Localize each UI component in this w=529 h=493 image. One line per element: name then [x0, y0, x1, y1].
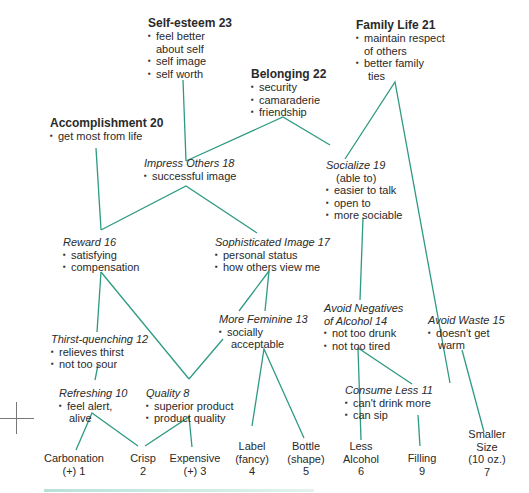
hierarchical-value-map: Self-esteem 23 feel betterabout self sel… — [0, 0, 529, 493]
attr-smaller-size: SmallerSize(10 oz.)7 — [464, 428, 510, 478]
node-reward: Reward 16 satisfying compensation — [63, 236, 140, 274]
node-bullet: can't drink more — [345, 397, 433, 410]
attr-bottle: Bottle(shape)5 — [286, 440, 326, 478]
node-title: Accomplishment 20 — [50, 116, 163, 130]
node-title: Family Life 21 — [356, 18, 445, 32]
node-bullet: open to — [326, 197, 402, 210]
node-bullet: get most from life — [50, 130, 163, 143]
attr-crisp: Crisp2 — [128, 452, 158, 477]
link-selfesteem-impress — [183, 80, 186, 161]
node-bullet: product quality — [146, 412, 234, 425]
node-title: Avoid Waste 15 — [428, 314, 505, 327]
node-bullet: superior product — [146, 400, 234, 413]
node-title: Consume Less 11 — [345, 384, 433, 397]
figure-caption-cutoff — [44, 489, 314, 492]
node-self-esteem: Self-esteem 23 feel betterabout self sel… — [148, 16, 232, 80]
node-bullet: maintain respectof others — [356, 32, 445, 57]
node-bullet: self worth — [148, 68, 232, 81]
link-feminine-quality — [189, 339, 223, 379]
registration-crosshair — [0, 402, 34, 434]
node-impress-others: Impress Others 18 successful image — [144, 157, 236, 182]
link-impress-children — [101, 186, 257, 233]
attr-less-alcohol: LessAlcohol6 — [341, 440, 381, 478]
attr-filling: Filling9 — [405, 452, 439, 477]
node-title: Socialize 19 — [326, 159, 402, 172]
node-subtitle: (able to) — [326, 172, 402, 185]
node-bullet: not too drunk — [324, 327, 403, 340]
attr-expensive: Expensive(+) 3 — [168, 452, 222, 477]
node-more-feminine: More Feminine 13 sociallyacceptable — [219, 313, 308, 351]
node-bullet: can sip — [345, 409, 433, 422]
attr-label: Label(fancy)4 — [234, 440, 270, 478]
crosshair-vertical — [16, 402, 17, 434]
node-bullet: relieves thirst — [51, 346, 148, 359]
node-bullet: successful image — [144, 170, 236, 183]
link-belonging — [186, 117, 330, 161]
node-bullet: not too sour — [51, 358, 148, 371]
node-bullet: doesn't getwarm — [428, 327, 505, 352]
link-reward-thirst — [97, 272, 101, 332]
node-title: Quality 8 — [146, 387, 234, 400]
node-title: More Feminine 13 — [219, 313, 308, 326]
node-bullet: more sociable — [326, 209, 402, 222]
node-bullet: how others view me — [215, 261, 330, 274]
node-title: Thirst-quenching 12 — [51, 333, 148, 346]
node-bullet: better familyties — [356, 57, 445, 82]
node-accomplishment: Accomplishment 20 get most from life — [50, 116, 163, 143]
node-refreshing: Refreshing 10 feel alert,alive — [59, 387, 128, 425]
node-title: Self-esteem 23 — [148, 16, 232, 30]
crosshair-horizontal — [0, 418, 34, 419]
node-bullet: satisfying — [63, 249, 140, 262]
node-belonging: Belonging 22 security camaraderie friend… — [251, 67, 326, 119]
node-title: of Alcohol 14 — [324, 315, 403, 328]
node-title: Belonging 22 — [251, 67, 326, 81]
node-bullet: feel alert,alive — [59, 400, 128, 425]
link-feminine-attrs — [252, 349, 304, 438]
link-soph-feminine-b — [265, 271, 269, 311]
node-thirst-quenching: Thirst-quenching 12 relieves thirst not … — [51, 333, 148, 371]
node-bullet: security — [251, 81, 326, 94]
link-accomplishment-reward — [96, 148, 101, 230]
node-bullet: compensation — [63, 261, 140, 274]
node-bullet: self image — [148, 55, 232, 68]
node-avoid-waste: Avoid Waste 15 doesn't getwarm — [428, 314, 505, 352]
node-family-life: Family Life 21 maintain respectof others… — [356, 18, 445, 82]
link-socialize-avoidneg — [360, 218, 363, 300]
node-consume-less: Consume Less 11 can't drink more can sip — [345, 384, 433, 422]
node-title: Refreshing 10 — [59, 387, 128, 400]
link-soph-feminine-a — [239, 271, 269, 311]
node-bullet: personal status — [215, 249, 330, 262]
node-bullet: feel betterabout self — [148, 30, 232, 55]
node-title: Sophisticated Image 17 — [215, 236, 330, 249]
node-bullet: sociallyacceptable — [219, 326, 308, 351]
node-sophisticated-image: Sophisticated Image 17 personal status h… — [215, 236, 330, 274]
node-bullet: friendship — [251, 106, 326, 119]
node-socialize: Socialize 19 (able to) easier to talk op… — [326, 159, 402, 222]
node-title: Reward 16 — [63, 236, 140, 249]
node-title: Impress Others 18 — [144, 157, 236, 170]
node-title: Avoid Negatives — [324, 302, 403, 315]
node-bullet: not too tired — [324, 340, 403, 353]
node-bullet: easier to talk — [326, 184, 402, 197]
node-bullet: camaraderie — [251, 94, 326, 107]
node-quality: Quality 8 superior product product quali… — [146, 387, 234, 425]
attr-carbonation: Carbonation(+) 1 — [44, 452, 104, 477]
node-avoid-negatives-of-alcohol: Avoid Negatives of Alcohol 14 not too dr… — [324, 302, 403, 352]
link-avoidwaste-size — [462, 350, 484, 432]
